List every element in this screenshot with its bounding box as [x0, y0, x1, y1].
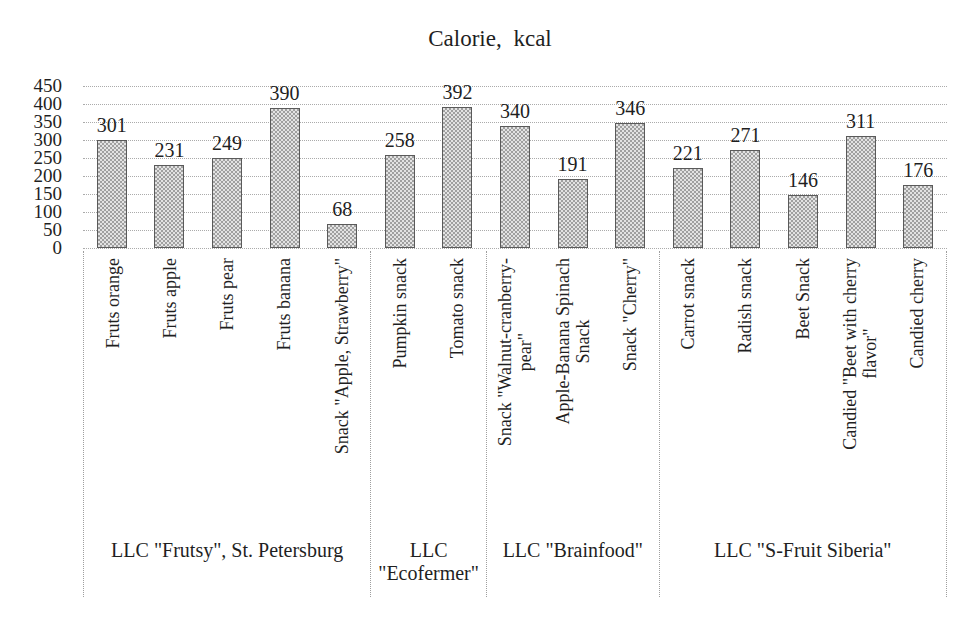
category-label-slot: Snack "Cherry" — [601, 251, 658, 519]
bar — [903, 185, 933, 248]
bar-slot: 340 — [486, 86, 544, 248]
bar-chart: Calorie, kcal 45040035030025020015010050… — [0, 0, 980, 627]
bar-slot: 390 — [256, 86, 314, 248]
category-label: Pumpkin snack — [390, 258, 410, 369]
category-label: Beet Snack — [793, 258, 813, 339]
bar-slot: 258 — [371, 86, 429, 248]
bar-slot: 392 — [429, 86, 487, 248]
category-group-cell: Carrot snackRadish snackBeet SnackCandie… — [659, 251, 947, 597]
bar-slot: 221 — [659, 86, 717, 248]
category-label-slot: Carrot snack — [660, 251, 717, 519]
bar-slot: 346 — [601, 86, 659, 248]
group-label: LLC "Brainfood" — [503, 539, 643, 562]
bar-value-label: 258 — [385, 129, 415, 152]
category-label: Tomato snack — [447, 258, 467, 358]
category-label-slot: Fruts orange — [84, 251, 141, 519]
category-label-slot: Fruts apple — [141, 251, 198, 519]
bar-group: 340191346 — [486, 86, 659, 248]
bar — [270, 108, 300, 248]
bar — [673, 168, 703, 248]
category-label: Radish snack — [735, 258, 755, 353]
bar — [97, 140, 127, 248]
bar-slot: 68 — [313, 86, 371, 248]
category-label: Apple-Banana Spinach Snack — [553, 258, 593, 424]
category-label-slot: Radish snack — [717, 251, 774, 519]
bar — [730, 150, 760, 248]
bar-slot: 191 — [544, 86, 602, 248]
category-label: Candied "Beet with cherry flavor" — [840, 258, 880, 450]
bar-value-label: 176 — [903, 159, 933, 182]
bar-value-label: 340 — [500, 100, 530, 123]
category-label: Fruts apple — [160, 258, 180, 339]
category-label-row: Pumpkin snackTomato snack — [371, 251, 486, 519]
bar-slot: 249 — [198, 86, 256, 248]
bar-group: 258392 — [371, 86, 486, 248]
category-label-row: Fruts orangeFruts appleFruts pearFruts b… — [84, 251, 370, 519]
category-label: Fruts pear — [217, 258, 237, 330]
bar-slot: 271 — [717, 86, 775, 248]
bar — [442, 107, 472, 248]
bar — [385, 155, 415, 248]
category-label-slot: Pumpkin snack — [371, 251, 428, 519]
category-label-slot: Snack "Apple, Strawberry" — [313, 251, 370, 519]
bar-value-label: 221 — [673, 142, 703, 165]
category-group-cell: Fruts orangeFruts appleFruts pearFruts b… — [83, 251, 370, 597]
bar-groups: 3012312493906825839234019134622127114631… — [83, 86, 947, 248]
category-label-slot: Candied cherry — [889, 251, 946, 519]
bar — [558, 179, 588, 248]
category-label: Fruts orange — [103, 258, 123, 348]
bar — [615, 123, 645, 248]
category-label: Fruts banana — [274, 258, 294, 350]
bar-slot: 301 — [83, 86, 141, 248]
bar — [154, 165, 184, 248]
category-label: Candied cherry — [907, 258, 927, 368]
group-label: LLC "Frutsy", St. Petersburg — [111, 539, 343, 562]
y-axis-tick-label: 0 — [14, 238, 62, 258]
category-label: Snack "Cherry" — [620, 258, 640, 371]
bar — [500, 126, 530, 248]
bar-value-label: 346 — [615, 97, 645, 120]
bar — [788, 195, 818, 248]
bar-slot: 176 — [889, 86, 947, 248]
bar-value-label: 390 — [270, 82, 300, 105]
bar-group: 221271146311176 — [659, 86, 947, 248]
bar-value-label: 311 — [846, 110, 875, 133]
category-label: Snack "Walnut-cranberry- pear" — [495, 258, 535, 446]
group-label-row: LLC "Brainfood" — [487, 519, 659, 597]
bar-value-label: 146 — [788, 169, 818, 192]
category-label-slot: Fruts banana — [256, 251, 313, 519]
bar-value-label: 231 — [154, 139, 184, 162]
category-label-slot: Beet Snack — [774, 251, 831, 519]
category-label-slot: Tomato snack — [429, 251, 486, 519]
bar-value-label: 392 — [442, 81, 472, 104]
bar-value-label: 68 — [332, 198, 352, 221]
bar-value-label: 249 — [212, 132, 242, 155]
category-label-row: Carrot snackRadish snackBeet SnackCandie… — [660, 251, 946, 519]
category-label-row: Snack "Walnut-cranberry- pear"Apple-Bana… — [487, 251, 659, 519]
category-label: Carrot snack — [678, 258, 698, 349]
group-label-row: LLC "Ecofermer" — [371, 519, 486, 597]
category-group-cell: Snack "Walnut-cranberry- pear"Apple-Bana… — [486, 251, 659, 597]
bar — [212, 158, 242, 248]
group-label: LLC "S-Fruit Siberia" — [714, 539, 891, 562]
category-label-slot: Snack "Walnut-cranberry- pear" — [487, 251, 544, 519]
category-label-slot: Apple-Banana Spinach Snack — [544, 251, 601, 519]
group-label: LLC "Ecofermer" — [378, 539, 479, 585]
bar-value-label: 301 — [97, 114, 127, 137]
chart-title: Calorie, kcal — [0, 26, 980, 52]
bar-value-label: 191 — [558, 153, 588, 176]
group-label-row: LLC "Frutsy", St. Petersburg — [84, 519, 370, 597]
gridline — [83, 248, 947, 249]
bar-slot: 311 — [832, 86, 890, 248]
category-label-slot: Fruts pear — [199, 251, 256, 519]
bar-value-label: 271 — [730, 124, 760, 147]
category-label: Snack "Apple, Strawberry" — [332, 258, 352, 454]
bar — [846, 136, 876, 248]
category-label-slot: Candied "Beet with cherry flavor" — [831, 251, 888, 519]
category-group-cell: Pumpkin snackTomato snackLLC "Ecofermer" — [370, 251, 486, 597]
bar-slot: 146 — [774, 86, 832, 248]
plot-area: 3012312493906825839234019134622127114631… — [83, 86, 947, 248]
y-axis: 450400350300250200150100500 — [14, 0, 62, 280]
group-label-row: LLC "S-Fruit Siberia" — [660, 519, 946, 597]
bar-slot: 231 — [141, 86, 199, 248]
